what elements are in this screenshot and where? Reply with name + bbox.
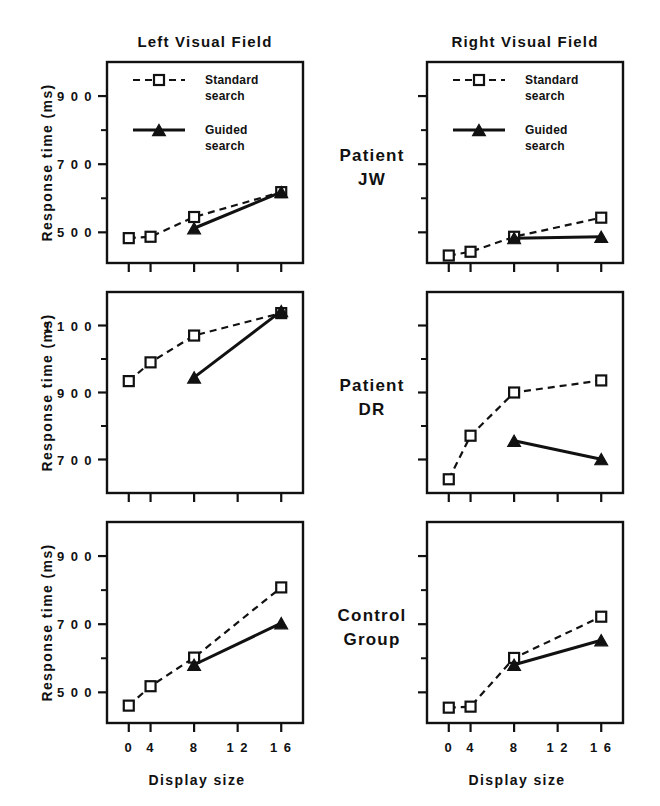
marker-open-square-2 [124,701,134,711]
x-tick-label-2: 0 [444,740,453,755]
legend-label-guided-search-line1: Guided [525,123,568,137]
marker-open-square-2 [124,233,134,243]
marker-open-square-2 [124,376,134,386]
search-rt-multipanel-figure: Left Visual FieldRight Visual FieldPatie… [0,0,660,806]
panel-3-left: 0481 21 65 0 07 0 09 0 0Display size [57,522,303,788]
series-line-guided-search [194,192,281,228]
y-tick-label-900: 9 0 0 [57,89,93,104]
marker-open-square-8 [189,212,199,222]
panel-frame [427,522,623,723]
x-axis-title: Display size [469,772,566,788]
legend-label-standard-search-line2: search [205,89,245,103]
marker-open-square-16 [596,213,606,223]
marker-open-square-2 [444,703,454,713]
marker-open-square-4 [146,681,156,691]
legend-marker-open-square [474,75,484,85]
panel-1-right: StandardsearchGuidedsearch [418,62,623,272]
panel-3-right: 0481 21 6Display size [418,522,623,788]
row-label-line2: DR [359,400,386,419]
row-label-1: PatientJW [339,146,404,189]
legend-label-standard-search-line2: search [525,89,565,103]
y-tick-label-700: 7 0 0 [57,453,93,468]
x-tick-label-8: 8 [510,740,519,755]
marker-open-square-4 [466,247,476,257]
marker-open-square-8 [189,331,199,341]
y-axis-title-row-1: Response time (ms) [39,83,55,241]
legend: StandardsearchGuidedsearch [133,73,259,153]
x-tick-label-16: 1 6 [590,740,612,755]
marker-open-square-16 [276,582,286,592]
x-tick-label-4: 4 [146,740,155,755]
figure-root: Left Visual FieldRight Visual FieldPatie… [0,0,660,806]
x-tick-label-12: 1 2 [227,740,249,755]
series-line-guided-search [514,441,601,459]
marker-open-square-4 [466,702,476,712]
legend: StandardsearchGuidedsearch [453,73,579,153]
panel-1-left: 5 0 07 0 09 0 0StandardsearchGuidedsearc… [57,62,303,272]
marker-filled-triangle-8 [188,223,201,234]
y-tick-label-700: 7 0 0 [57,617,93,632]
x-tick-label-8: 8 [190,740,199,755]
y-axis-title-row-2: Response time (ms) [39,313,55,471]
row-label-line1: Patient [339,376,404,395]
x-axis-title: Display size [149,772,246,788]
marker-open-square-16 [596,612,606,622]
legend-label-standard-search-line1: Standard [205,73,259,87]
y-tick-label-900: 9 0 0 [57,386,93,401]
series-line-guided-search [194,311,281,377]
marker-open-square-2 [444,251,454,261]
panel-frame [107,292,303,493]
y-tick-label-500: 5 0 0 [57,225,93,240]
x-tick-label-2: 0 [124,740,133,755]
y-tick-label-700: 7 0 0 [57,157,93,172]
series-line-guided-search [194,623,281,665]
y-tick-label-900: 9 0 0 [57,549,93,564]
panel-2-right [418,292,623,502]
y-tick-label-1100: 1 1 0 0 [43,319,93,334]
panel-frame [107,522,303,723]
y-axis-title-row-3: Response time (ms) [39,543,55,701]
marker-open-square-2 [444,474,454,484]
marker-open-square-4 [466,431,476,441]
row-label-line1: Control [338,606,407,625]
column-title-1: Left Visual Field [137,33,272,50]
column-title-2: Right Visual Field [451,33,598,50]
legend-marker-open-square [154,75,164,85]
row-label-2: PatientDR [339,376,404,419]
legend-label-guided-search-line2: search [525,139,565,153]
panel-2-left: 7 0 09 0 01 1 0 0 [43,292,303,502]
row-label-line2: Group [344,630,401,649]
y-tick-label-500: 5 0 0 [57,685,93,700]
legend-label-guided-search-line2: search [205,139,245,153]
row-label-line2: JW [358,170,386,189]
x-tick-label-16: 1 6 [270,740,292,755]
x-tick-label-12: 1 2 [547,740,569,755]
series-line-guided-search [514,237,601,238]
marker-open-square-16 [596,375,606,385]
legend-label-standard-search-line1: Standard [525,73,579,87]
marker-open-square-4 [146,232,156,242]
row-label-3: ControlGroup [338,606,407,649]
row-label-line1: Patient [339,146,404,165]
x-tick-label-4: 4 [466,740,475,755]
marker-open-square-4 [146,357,156,367]
marker-filled-triangle-16 [275,618,288,629]
legend-label-guided-search-line1: Guided [205,123,248,137]
marker-open-square-8 [509,388,519,398]
